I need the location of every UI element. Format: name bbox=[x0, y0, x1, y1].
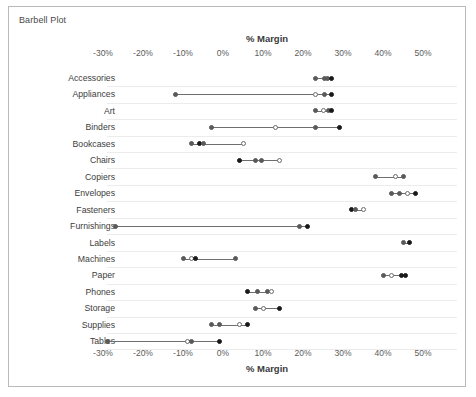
x-tick-label-bottom-40pct: 40% bbox=[363, 348, 403, 358]
data-point[interactable] bbox=[189, 141, 194, 146]
gridline bbox=[107, 267, 457, 268]
data-point[interactable] bbox=[253, 306, 258, 311]
data-point[interactable] bbox=[305, 224, 310, 229]
barbell-connector bbox=[175, 94, 331, 95]
y-axis-label-art: Art bbox=[0, 105, 115, 117]
y-axis-label-bookcases: Bookcases bbox=[0, 138, 115, 150]
y-axis-label-chairs: Chairs bbox=[0, 154, 115, 166]
x-tick-label-bottom-neg20pct: -20% bbox=[123, 348, 163, 358]
data-point[interactable] bbox=[209, 322, 214, 327]
gridline bbox=[107, 251, 457, 252]
x-tick-label-bottom-neg10pct: -10% bbox=[163, 348, 203, 358]
x-tick-label-top-0pct: 0% bbox=[203, 48, 243, 58]
data-point[interactable] bbox=[237, 158, 242, 163]
x-tick-label-top-20pct: 20% bbox=[283, 48, 323, 58]
data-point[interactable] bbox=[241, 141, 246, 146]
data-point[interactable] bbox=[313, 92, 318, 97]
data-point[interactable] bbox=[353, 207, 358, 212]
data-point[interactable] bbox=[233, 256, 238, 261]
data-point[interactable] bbox=[245, 289, 250, 294]
gridline bbox=[107, 185, 457, 186]
data-point[interactable] bbox=[209, 125, 214, 130]
x-tick-label-bottom-50pct: 50% bbox=[403, 348, 443, 358]
y-axis-label-binders: Binders bbox=[0, 121, 115, 133]
y-axis-label-paper: Paper bbox=[0, 269, 115, 281]
y-axis-label-fasteners: Fasteners bbox=[0, 204, 115, 216]
x-tick-label-top-40pct: 40% bbox=[363, 48, 403, 58]
data-point[interactable] bbox=[273, 125, 278, 130]
barbell-connector bbox=[115, 226, 307, 227]
barbell-connector bbox=[391, 193, 415, 194]
plot-area: -30%-20%-10%0%10%20%30%40%50% -30%-20%-1… bbox=[9, 7, 467, 388]
data-point[interactable] bbox=[397, 191, 402, 196]
data-point[interactable] bbox=[337, 125, 342, 130]
gridline bbox=[107, 119, 457, 120]
data-point[interactable] bbox=[389, 273, 394, 278]
barbell-connector bbox=[107, 341, 219, 342]
data-point[interactable] bbox=[401, 240, 406, 245]
gridline bbox=[107, 168, 457, 169]
data-point[interactable] bbox=[277, 306, 282, 311]
x-tick-label-top-30pct: 30% bbox=[323, 48, 363, 58]
data-point[interactable] bbox=[277, 158, 282, 163]
data-point[interactable] bbox=[329, 108, 334, 113]
data-point[interactable] bbox=[313, 76, 318, 81]
data-point[interactable] bbox=[401, 174, 406, 179]
y-axis-label-envelopes: Envelopes bbox=[0, 187, 115, 199]
data-point[interactable] bbox=[413, 191, 418, 196]
y-axis-label-supplies: Supplies bbox=[0, 319, 115, 331]
data-point[interactable] bbox=[261, 306, 266, 311]
data-point[interactable] bbox=[181, 256, 186, 261]
data-point[interactable] bbox=[329, 92, 334, 97]
x-tick-label-top-50pct: 50% bbox=[403, 48, 443, 58]
data-point[interactable] bbox=[403, 273, 408, 278]
data-point[interactable] bbox=[313, 108, 318, 113]
x-tick-label-bottom-30pct: 30% bbox=[323, 348, 363, 358]
data-point[interactable] bbox=[113, 224, 118, 229]
data-point[interactable] bbox=[255, 289, 260, 294]
data-point[interactable] bbox=[407, 240, 412, 245]
barbell-connector bbox=[255, 308, 279, 309]
y-axis-category-labels: AccessoriesAppliancesArtBindersBookcases… bbox=[9, 7, 115, 388]
x-tick-label-top-neg20pct: -20% bbox=[123, 48, 163, 58]
data-point[interactable] bbox=[193, 256, 198, 261]
gridline bbox=[107, 201, 457, 202]
data-point[interactable] bbox=[329, 76, 334, 81]
data-point[interactable] bbox=[105, 339, 110, 344]
data-point[interactable] bbox=[297, 224, 302, 229]
data-point[interactable] bbox=[253, 158, 258, 163]
y-axis-label-labels: Labels bbox=[0, 237, 115, 249]
data-point[interactable] bbox=[259, 158, 264, 163]
data-point[interactable] bbox=[189, 339, 194, 344]
y-axis-label-appliances: Appliances bbox=[0, 88, 115, 100]
y-axis-label-furnishings: Furnishings bbox=[0, 220, 115, 232]
y-axis-label-accessories: Accessories bbox=[0, 72, 115, 84]
data-point[interactable] bbox=[313, 125, 318, 130]
data-point[interactable] bbox=[245, 322, 250, 327]
gridline bbox=[107, 234, 457, 235]
gridline bbox=[107, 103, 457, 104]
data-point[interactable] bbox=[322, 92, 327, 97]
y-axis-label-tables: Tables bbox=[0, 335, 115, 347]
barbell-connector bbox=[375, 177, 403, 178]
data-point[interactable] bbox=[237, 322, 242, 327]
y-axis-label-copiers: Copiers bbox=[0, 171, 115, 183]
data-point[interactable] bbox=[393, 174, 398, 179]
data-point[interactable] bbox=[173, 92, 178, 97]
data-point[interactable] bbox=[381, 273, 386, 278]
y-axis-label-machines: Machines bbox=[0, 253, 115, 265]
data-point[interactable] bbox=[405, 191, 410, 196]
data-point[interactable] bbox=[361, 207, 366, 212]
y-axis-label-storage: Storage bbox=[0, 302, 115, 314]
gridline bbox=[107, 136, 457, 137]
gridline bbox=[107, 152, 457, 153]
x-tick-label-bottom-0pct: 0% bbox=[203, 348, 243, 358]
data-point[interactable] bbox=[389, 191, 394, 196]
data-point[interactable] bbox=[269, 289, 274, 294]
data-point[interactable] bbox=[321, 108, 326, 113]
data-point[interactable] bbox=[201, 141, 206, 146]
data-point[interactable] bbox=[373, 174, 378, 179]
data-point[interactable] bbox=[217, 339, 222, 344]
x-tick-label-top-10pct: 10% bbox=[243, 48, 283, 58]
data-point[interactable] bbox=[217, 322, 222, 327]
